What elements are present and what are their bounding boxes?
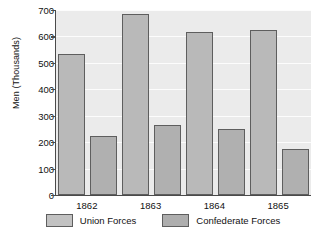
legend-label: Union Forces	[80, 215, 137, 226]
x-axis-label-1863: 1863	[140, 200, 161, 211]
bar-union-forces-1864	[186, 32, 213, 195]
bar-confederate-forces-1863	[154, 125, 181, 195]
bar-chart: Men (Thousands) 0100200300400500600700 1…	[0, 0, 326, 241]
union-swatch	[46, 214, 73, 227]
y-axis-tick-label: 300	[14, 110, 54, 121]
y-axis-tick-label: 700	[14, 5, 54, 16]
gridline	[56, 10, 311, 11]
y-axis-tick-label: 100	[14, 163, 54, 174]
chart-legend: Union ForcesConfederate Forces	[0, 214, 326, 227]
y-axis-tick-label: 200	[14, 137, 54, 148]
x-axis-label-1862: 1862	[76, 200, 97, 211]
x-axis-label-1864: 1864	[204, 200, 225, 211]
bar-confederate-forces-1862	[90, 136, 117, 195]
y-axis-tick-label: 400	[14, 84, 54, 95]
legend-entry-union-forces[interactable]: Union Forces	[46, 214, 137, 227]
plot-area	[55, 10, 311, 196]
bar-confederate-forces-1864	[218, 129, 245, 195]
y-axis-tick-label: 500	[14, 57, 54, 68]
x-axis-label-1865: 1865	[268, 200, 289, 211]
bar-union-forces-1863	[122, 14, 149, 195]
legend-entry-confederate-forces[interactable]: Confederate Forces	[162, 214, 280, 227]
legend-label: Confederate Forces	[196, 215, 280, 226]
bar-union-forces-1865	[250, 30, 277, 195]
confederate-swatch	[162, 214, 189, 227]
y-axis-tick-label: 0	[14, 190, 54, 201]
y-axis-tick-label: 600	[14, 31, 54, 42]
bar-confederate-forces-1865	[282, 149, 309, 195]
bar-union-forces-1862	[58, 54, 85, 195]
